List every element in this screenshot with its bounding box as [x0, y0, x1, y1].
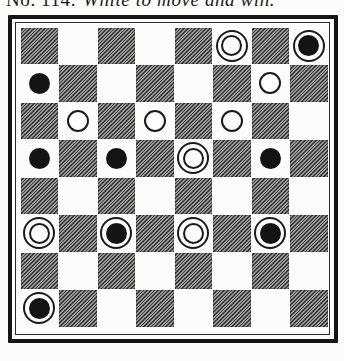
dark-square-r1c3[interactable] — [136, 65, 175, 103]
light-square-r1c6[interactable] — [251, 65, 290, 103]
dark-square-r5c3[interactable] — [136, 215, 175, 253]
white-king-piece[interactable] — [177, 217, 209, 249]
black-king-piece[interactable] — [23, 292, 55, 324]
dark-square-r4c0[interactable] — [20, 177, 59, 215]
light-square-r7c0[interactable] — [20, 290, 59, 328]
dark-square-r3c5[interactable] — [213, 140, 252, 178]
white-king-piece[interactable] — [177, 142, 209, 174]
dark-square-r7c7[interactable] — [290, 290, 329, 328]
dark-square-r5c1[interactable] — [59, 215, 98, 253]
black-king-piece[interactable] — [254, 217, 286, 249]
light-square-r2c3[interactable] — [136, 102, 175, 140]
dark-square-r6c0[interactable] — [20, 252, 59, 290]
black-man-piece[interactable] — [29, 73, 50, 94]
king-inner-disc — [260, 223, 281, 244]
light-square-r1c2[interactable] — [97, 65, 136, 103]
problem-caption: White to move and win. — [83, 0, 275, 10]
light-square-r5c2[interactable] — [97, 215, 136, 253]
light-square-r6c5[interactable] — [213, 252, 252, 290]
dark-square-r1c7[interactable] — [290, 65, 329, 103]
dark-square-r2c0[interactable] — [20, 102, 59, 140]
dark-square-r6c4[interactable] — [174, 252, 213, 290]
king-inner-ring — [183, 223, 204, 244]
dark-square-r0c4[interactable] — [174, 27, 213, 65]
white-king-piece[interactable] — [23, 217, 55, 249]
dark-square-r5c5[interactable] — [213, 215, 252, 253]
light-square-r3c6[interactable] — [251, 140, 290, 178]
light-square-r4c7[interactable] — [290, 177, 329, 215]
black-man-piece[interactable] — [260, 148, 281, 169]
light-square-r1c4[interactable] — [174, 65, 213, 103]
dark-square-r1c1[interactable] — [59, 65, 98, 103]
light-square-r6c3[interactable] — [136, 252, 175, 290]
dark-square-r5c7[interactable] — [290, 215, 329, 253]
light-square-r2c1[interactable] — [59, 102, 98, 140]
dark-square-r3c3[interactable] — [136, 140, 175, 178]
light-square-r5c0[interactable] — [20, 215, 59, 253]
dark-square-r4c6[interactable] — [251, 177, 290, 215]
light-square-r7c6[interactable] — [251, 290, 290, 328]
light-square-r6c1[interactable] — [59, 252, 98, 290]
dark-square-r3c7[interactable] — [290, 140, 329, 178]
dark-square-r0c2[interactable] — [97, 27, 136, 65]
dark-square-r6c6[interactable] — [251, 252, 290, 290]
dark-square-r2c4[interactable] — [174, 102, 213, 140]
black-man-piece[interactable] — [106, 148, 127, 169]
light-square-r2c5[interactable] — [213, 102, 252, 140]
light-square-r4c3[interactable] — [136, 177, 175, 215]
king-inner-disc — [29, 298, 50, 319]
light-square-r4c1[interactable] — [59, 177, 98, 215]
dark-square-r0c6[interactable] — [251, 27, 290, 65]
dark-square-r7c5[interactable] — [213, 290, 252, 328]
light-square-r3c0[interactable] — [20, 140, 59, 178]
dark-square-r2c6[interactable] — [251, 102, 290, 140]
dark-square-r0c0[interactable] — [20, 27, 59, 65]
white-man-piece[interactable] — [144, 110, 166, 132]
light-square-r5c6[interactable] — [251, 215, 290, 253]
dark-square-r1c5[interactable] — [213, 65, 252, 103]
light-square-r2c7[interactable] — [290, 102, 329, 140]
light-square-r0c1[interactable] — [59, 27, 98, 65]
light-square-r0c5[interactable] — [213, 27, 252, 65]
white-man-piece[interactable] — [67, 110, 89, 132]
light-square-r7c4[interactable] — [174, 290, 213, 328]
king-inner-ring — [29, 223, 50, 244]
dark-square-r6c2[interactable] — [97, 252, 136, 290]
light-square-r3c2[interactable] — [97, 140, 136, 178]
problem-number: No. 114. — [6, 0, 76, 10]
dark-square-r4c4[interactable] — [174, 177, 213, 215]
black-man-piece[interactable] — [29, 148, 50, 169]
problem-title: No. 114.White to move and win. — [6, 0, 275, 11]
black-king-piece[interactable] — [293, 30, 325, 62]
light-square-r0c7[interactable] — [290, 27, 329, 65]
light-square-r0c3[interactable] — [136, 27, 175, 65]
light-square-r5c4[interactable] — [174, 215, 213, 253]
king-inner-disc — [298, 35, 319, 56]
dark-square-r7c1[interactable] — [59, 290, 98, 328]
white-king-piece[interactable] — [216, 30, 248, 62]
light-square-r1c0[interactable] — [20, 65, 59, 103]
dark-square-r2c2[interactable] — [97, 102, 136, 140]
dark-square-r4c2[interactable] — [97, 177, 136, 215]
black-king-piece[interactable] — [100, 217, 132, 249]
white-man-piece[interactable] — [259, 72, 281, 94]
king-inner-disc — [106, 223, 127, 244]
light-square-r4c5[interactable] — [213, 177, 252, 215]
light-square-r7c2[interactable] — [97, 290, 136, 328]
light-square-r3c4[interactable] — [174, 140, 213, 178]
dark-square-r7c3[interactable] — [136, 290, 175, 328]
white-man-piece[interactable] — [221, 110, 243, 132]
king-inner-ring — [221, 35, 242, 56]
king-inner-ring — [183, 148, 204, 169]
checkers-board — [20, 27, 328, 327]
light-square-r6c7[interactable] — [290, 252, 329, 290]
dark-square-r3c1[interactable] — [59, 140, 98, 178]
